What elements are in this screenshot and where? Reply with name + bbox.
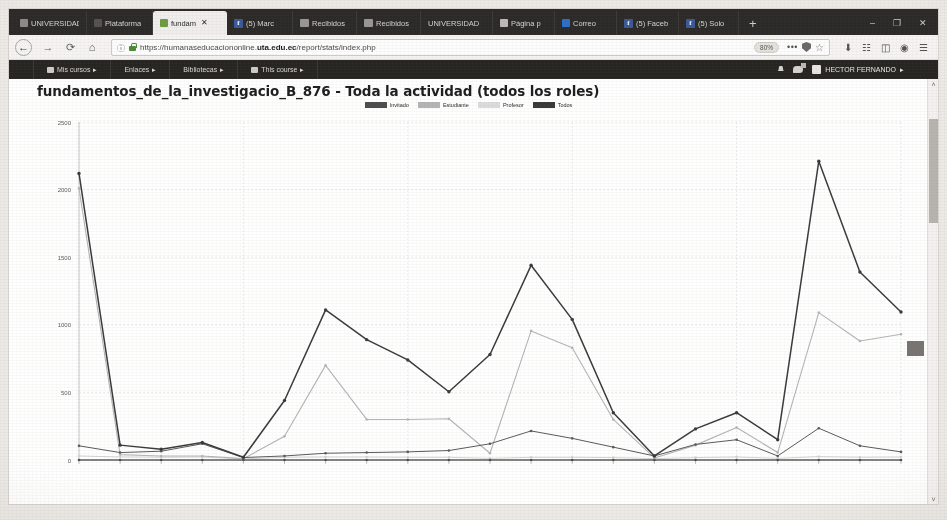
- sidebar-icon[interactable]: ◫: [881, 42, 890, 53]
- series-estudiante: [78, 187, 903, 460]
- data-point: [77, 172, 80, 175]
- data-point: [858, 270, 861, 273]
- tab-label: Recibidos: [312, 19, 345, 28]
- bell-icon[interactable]: [777, 66, 784, 74]
- data-point: [242, 456, 245, 459]
- series-invitado: [78, 459, 903, 462]
- data-point: [406, 358, 409, 361]
- data-point: [201, 441, 204, 444]
- tab-label: (5) Solo: [698, 19, 724, 28]
- vertical-scrollbar[interactable]: ˄ ˅: [927, 79, 938, 505]
- data-point: [283, 455, 286, 458]
- data-point: [612, 456, 615, 459]
- data-point: [735, 459, 738, 462]
- data-point: [818, 455, 821, 458]
- browser-tab[interactable]: Plataforma: [87, 11, 153, 35]
- browser-tab[interactable]: f (5) Marc: [227, 11, 293, 35]
- browser-tab[interactable]: Correo: [555, 11, 617, 35]
- page-content: Mis cursos ▸ Enlaces ▸ Bibliotecas ▸ Thi…: [9, 60, 938, 505]
- reader-mode-icon[interactable]: [802, 42, 811, 52]
- data-point: [283, 435, 286, 438]
- data-point: [324, 308, 327, 311]
- browser-tab[interactable]: Recibidos: [357, 11, 421, 35]
- menu-icon[interactable]: ☰: [919, 42, 928, 53]
- page-icon: [94, 19, 102, 27]
- data-point: [776, 451, 779, 454]
- legend-item-invitado[interactable]: Invitado: [365, 102, 409, 108]
- nav-item-bibliotecas[interactable]: Bibliotecas ▸: [170, 60, 238, 79]
- library-icon[interactable]: ☷: [862, 42, 871, 53]
- scroll-up-arrow[interactable]: ˄: [928, 79, 938, 90]
- facebook-icon: f: [686, 19, 695, 28]
- data-point: [612, 411, 615, 414]
- data-point: [612, 459, 615, 462]
- data-point: [119, 451, 122, 454]
- scrollbar-thumb[interactable]: [929, 119, 938, 223]
- browser-tab[interactable]: f (5) Solo: [679, 11, 739, 35]
- data-point: [530, 430, 533, 433]
- legend-swatch: [533, 102, 555, 108]
- data-point: [818, 427, 821, 430]
- data-point: [201, 455, 204, 458]
- zoom-level-badge[interactable]: 80%: [754, 42, 779, 53]
- navigation-toolbar: ← → ⟳ ⌂ ⓘ https://humanaseducaciononline…: [9, 35, 938, 60]
- data-point: [365, 456, 368, 459]
- nav-item-label: This course: [261, 60, 297, 79]
- browser-tab[interactable]: Página p: [493, 11, 555, 35]
- page-info-icon[interactable]: ⓘ: [117, 42, 125, 53]
- home-button[interactable]: ⌂: [81, 38, 103, 57]
- legend-item-profesor[interactable]: Profesor: [478, 102, 524, 108]
- data-point: [859, 459, 862, 462]
- y-axis-tick-label: 2500: [58, 120, 72, 126]
- nav-item-this-course[interactable]: This course ▸: [238, 60, 318, 79]
- data-point: [653, 459, 656, 462]
- data-point: [530, 330, 533, 333]
- forward-button[interactable]: →: [37, 38, 59, 57]
- new-tab-button[interactable]: +: [739, 13, 767, 35]
- data-point: [571, 346, 574, 349]
- data-point: [571, 459, 574, 462]
- series-line: [79, 188, 901, 458]
- maximize-button[interactable]: ❐: [884, 11, 910, 35]
- bookmark-star-icon[interactable]: ☆: [815, 42, 824, 53]
- data-point: [118, 443, 121, 446]
- data-point: [365, 459, 368, 462]
- activity-line-chart: 05001000150020002500: [9, 110, 929, 482]
- data-point: [735, 438, 738, 441]
- user-menu[interactable]: HECTOR FERNANDO ▸: [812, 65, 904, 74]
- chevron-right-icon: ▸: [93, 60, 97, 79]
- legend-item-estudiante[interactable]: Estudiante: [418, 102, 469, 108]
- browser-tab[interactable]: UNIVERSIDAD: [13, 11, 87, 35]
- browser-tab[interactable]: f (5) Faceb: [617, 11, 679, 35]
- minimize-button[interactable]: –: [861, 11, 884, 35]
- download-icon[interactable]: ⬇: [844, 42, 852, 53]
- url-bar[interactable]: ⓘ https://humanaseducaciononline.uta.edu…: [111, 39, 830, 56]
- data-point: [694, 456, 697, 459]
- close-window-button[interactable]: ✕: [910, 11, 936, 35]
- reload-button[interactable]: ⟳: [59, 38, 81, 57]
- url-input[interactable]: https://humanaseducaciononline.uta.edu.e…: [140, 43, 750, 52]
- tab-label: Página p: [511, 19, 541, 28]
- data-point: [694, 459, 697, 462]
- close-icon[interactable]: ✕: [201, 19, 208, 27]
- data-point: [160, 447, 163, 450]
- data-point: [78, 187, 81, 190]
- scroll-down-arrow[interactable]: ˅: [928, 494, 938, 505]
- data-point: [324, 456, 327, 459]
- tab-label: (5) Marc: [246, 19, 274, 28]
- browser-tab-active[interactable]: fundam ✕: [153, 11, 227, 35]
- message-icon[interactable]: [793, 66, 803, 73]
- account-icon[interactable]: ◉: [900, 42, 909, 53]
- browser-tab[interactable]: Recibidos: [293, 11, 357, 35]
- nav-item-enlaces[interactable]: Enlaces ▸: [111, 60, 170, 79]
- browser-tab[interactable]: UNIVERSIDAD: [421, 11, 493, 35]
- back-button[interactable]: ←: [15, 39, 32, 56]
- data-point: [283, 459, 286, 462]
- legend-label: Invitado: [390, 102, 409, 108]
- nav-item-mis-cursos[interactable]: Mis cursos ▸: [33, 60, 111, 79]
- tab-label: Correo: [573, 19, 596, 28]
- moodle-navbar: Mis cursos ▸ Enlaces ▸ Bibliotecas ▸ Thi…: [9, 60, 938, 79]
- page-actions-icon[interactable]: •••: [787, 42, 798, 52]
- legend-item-todos[interactable]: Todos: [533, 102, 573, 108]
- mail-icon: [364, 19, 373, 27]
